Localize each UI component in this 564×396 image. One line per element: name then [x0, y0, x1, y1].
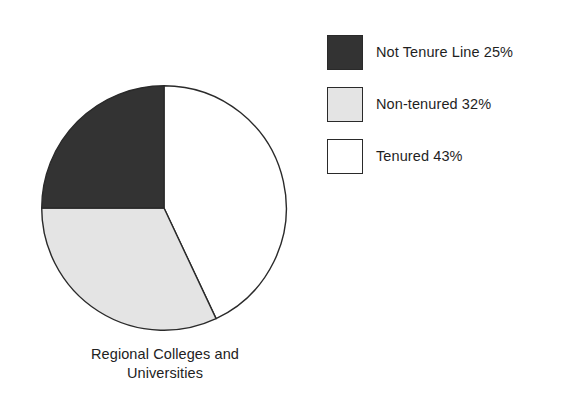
- legend-label-tenured: Tenured 43%: [376, 148, 463, 164]
- pie-svg: [41, 85, 287, 331]
- dark-gray-swatch-icon: [327, 35, 363, 70]
- legend-label-not-tenure-line: Not Tenure Line 25%: [376, 44, 513, 60]
- pie-slices: [42, 86, 287, 331]
- legend-item-tenured: Tenured 43%: [327, 137, 557, 175]
- chart-caption: Regional Colleges and Universities: [20, 345, 310, 383]
- caption-line-1: Regional Colleges and: [20, 345, 310, 364]
- legend-item-non-tenured: Non-tenured 32%: [327, 85, 557, 123]
- white-swatch-icon: [327, 139, 363, 174]
- pie-slice-not-tenure-line: [42, 86, 164, 208]
- pie-chart-figure: Regional Colleges and Universities Not T…: [0, 0, 564, 396]
- legend-item-not-tenure-line: Not Tenure Line 25%: [327, 33, 557, 71]
- light-gray-swatch-icon: [327, 87, 363, 122]
- caption-line-2: Universities: [20, 364, 310, 383]
- pie-plot-area: [41, 85, 287, 331]
- chart-legend: Not Tenure Line 25% Non-tenured 32% Tenu…: [327, 33, 557, 175]
- legend-label-non-tenured: Non-tenured 32%: [376, 96, 491, 112]
